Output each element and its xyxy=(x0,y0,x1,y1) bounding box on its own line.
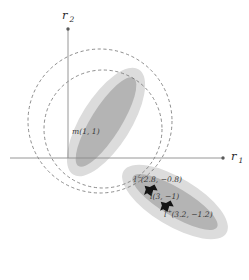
x-axis-arrow-tip xyxy=(221,156,224,159)
label-l-center: l(3, −1) xyxy=(150,192,179,201)
figure-canvas: r 2 r 1 m(1, 1) l − (2.8, −0.8) l(3, −1)… xyxy=(0,0,249,280)
label-l-minus: l − (2.8, −0.8) xyxy=(134,174,182,184)
x-axis-label: r 1 xyxy=(231,149,243,165)
x-axis-label-base: r xyxy=(231,149,238,163)
ellipse-group-l xyxy=(111,151,239,254)
y-axis-label-base: r xyxy=(62,8,69,22)
y-axis-arrow-tip xyxy=(66,27,69,30)
label-l-plus-coords: (3.2, −1.2) xyxy=(171,210,212,219)
vector-uncertainty-figure: r 2 r 1 m(1, 1) l − (2.8, −0.8) l(3, −1)… xyxy=(0,0,249,280)
label-mean-m: m(1, 1) xyxy=(72,127,100,136)
x-axis-label-subscript: 1 xyxy=(239,156,244,165)
y-axis-label: r 2 xyxy=(62,8,75,24)
label-l-plus: l + (3.2, −1.2) xyxy=(164,208,213,219)
label-l-minus-coords: (2.8, −0.8) xyxy=(141,175,182,184)
y-axis-label-subscript: 2 xyxy=(69,15,75,24)
